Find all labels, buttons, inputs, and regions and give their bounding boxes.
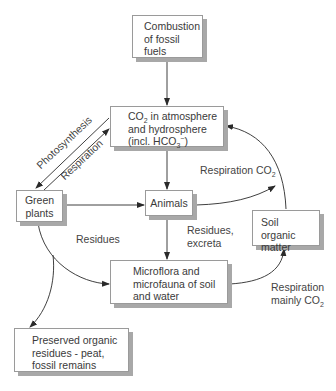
node-microflora-microfauna: Microflora and microfauna of soil and wa… xyxy=(110,260,228,304)
node-combustion-of-fossil-fuels: Combustion of fossil fuels xyxy=(132,15,203,58)
arrow-microflora-to-soil xyxy=(230,249,284,284)
edge-label-residues: Residues xyxy=(76,233,120,246)
node-soil-organic-matter: Soil organic matter xyxy=(252,210,320,246)
node-label: Animals xyxy=(148,197,190,210)
node-preserved-organic-residues: Preserved organic residues - peat, fossi… xyxy=(14,328,129,372)
node-label-line: matter xyxy=(261,241,315,254)
node-label-line: and water xyxy=(133,290,223,303)
node-label-line: Green xyxy=(19,194,60,207)
node-green-plants: Green plants xyxy=(16,190,63,222)
node-label-line: residues - peat, xyxy=(32,347,124,360)
node-label-line: fossil remains xyxy=(32,359,124,372)
arrow-animals-respiration-co2 xyxy=(196,186,275,205)
carbon-cycle-diagram: Combustion of fossil fuels CO2 in atmosp… xyxy=(0,0,336,391)
node-label-line: plants xyxy=(19,207,60,220)
node-label-line: CO2 in atmosphere xyxy=(128,110,219,123)
node-label-line: fuels xyxy=(144,45,196,58)
arrow-to-preserved xyxy=(30,255,54,327)
node-label-line: (incl. HCO3−) xyxy=(128,135,219,148)
node-label-line: Combustion xyxy=(144,20,196,33)
node-label-line: of fossil xyxy=(144,33,196,46)
edge-label-residues-excreta: Residues, excreta xyxy=(187,224,234,249)
node-co2-atmosphere-hydrosphere: CO2 in atmosphere and hydrosphere (incl.… xyxy=(110,106,224,147)
node-animals: Animals xyxy=(145,190,193,216)
node-label-line: Preserved organic xyxy=(32,334,124,347)
edge-label-respiration-mainly-co2: Respiration mainly CO2 xyxy=(271,281,324,306)
edge-label-respiration-co2: Respiration CO2 xyxy=(200,164,276,177)
node-label-line: and hydrosphere xyxy=(128,123,219,136)
node-label-line: Microflora and xyxy=(133,265,223,278)
node-label-line: Soil organic xyxy=(261,216,315,241)
node-label-line: microfauna of soil xyxy=(133,278,223,291)
